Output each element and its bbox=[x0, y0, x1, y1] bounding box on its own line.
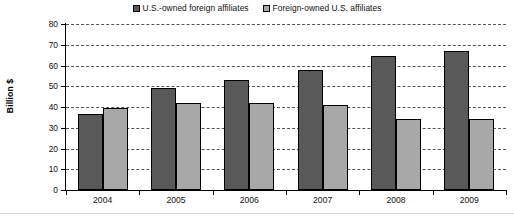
y-axis-tick-label: 10 bbox=[22, 165, 58, 173]
bar bbox=[78, 114, 103, 190]
x-axis-tick bbox=[139, 190, 140, 195]
legend-swatch-icon bbox=[133, 5, 140, 12]
chart-legend: U.S.-owned foreign affiliates Foreign-ow… bbox=[0, 1, 514, 15]
x-axis-tick-label: 2004 bbox=[66, 196, 139, 205]
x-axis-tick-labels: 200420052006200720082009 bbox=[66, 196, 506, 210]
x-axis-tick-label: 2005 bbox=[139, 196, 212, 205]
bar-group bbox=[139, 24, 212, 190]
y-axis-tick-label: 40 bbox=[22, 103, 58, 111]
bar-chart: U.S.-owned foreign affiliates Foreign-ow… bbox=[0, 0, 514, 217]
y-axis-tick-label: 30 bbox=[22, 124, 58, 132]
x-axis-tick bbox=[66, 190, 67, 195]
bar bbox=[396, 119, 421, 190]
y-axis-tick-label: 50 bbox=[22, 82, 58, 90]
y-axis-tick-label: 20 bbox=[22, 145, 58, 153]
bar bbox=[176, 103, 201, 190]
bar bbox=[103, 108, 128, 190]
y-axis-tick-labels: 01020304050607080 bbox=[22, 0, 58, 192]
bar-group bbox=[213, 24, 286, 190]
bar-group bbox=[66, 24, 139, 190]
legend-swatch-icon bbox=[263, 5, 270, 12]
bar bbox=[249, 103, 274, 190]
plot-area bbox=[66, 24, 506, 190]
bar bbox=[224, 80, 249, 190]
bar bbox=[151, 88, 176, 190]
x-axis-tick bbox=[506, 190, 507, 195]
bar bbox=[444, 51, 469, 190]
legend-item-foreign-owned-us-affiliates: Foreign-owned U.S. affiliates bbox=[263, 4, 382, 12]
bar-group bbox=[359, 24, 432, 190]
x-axis-tick-label: 2008 bbox=[359, 196, 432, 205]
bar-group bbox=[433, 24, 506, 190]
bar bbox=[323, 105, 348, 190]
bar bbox=[298, 70, 323, 190]
x-axis-tick-label: 2006 bbox=[213, 196, 286, 205]
legend-label: Foreign-owned U.S. affiliates bbox=[273, 4, 382, 12]
y-axis-tick-label: 0 bbox=[22, 186, 58, 194]
bottom-divider bbox=[0, 213, 514, 214]
x-axis-tick bbox=[286, 190, 287, 195]
bar-group bbox=[286, 24, 359, 190]
y-axis-tick-label: 80 bbox=[22, 20, 58, 28]
bar bbox=[371, 56, 396, 190]
x-axis-tick bbox=[433, 190, 434, 195]
y-axis-title: Billion $ bbox=[2, 0, 18, 192]
legend-item-us-owned-foreign-affiliates: U.S.-owned foreign affiliates bbox=[133, 4, 249, 12]
x-axis-tick-label: 2009 bbox=[433, 196, 506, 205]
x-axis-tick-label: 2007 bbox=[286, 196, 359, 205]
x-axis-tick bbox=[213, 190, 214, 195]
bar bbox=[469, 119, 494, 190]
legend-label: U.S.-owned foreign affiliates bbox=[143, 4, 249, 12]
x-axis-tick bbox=[359, 190, 360, 195]
y-axis-tick-label: 60 bbox=[22, 62, 58, 70]
y-axis-tick-label: 70 bbox=[22, 41, 58, 49]
